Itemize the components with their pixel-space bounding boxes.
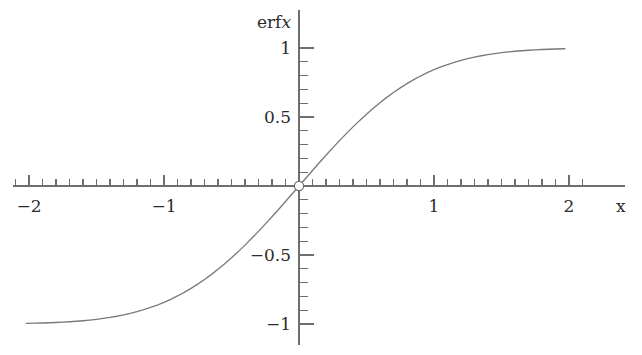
y-tick-label: 0.5 [264,109,291,126]
y-tick-label: 1 [280,40,291,57]
y-axis-title-variable: x [281,12,291,32]
x-axis-title: x [616,198,626,215]
y-axis-title: erfx [257,14,291,31]
y-tick-label: −1 [266,316,291,333]
x-tick-label: −1 [151,198,176,215]
x-axis [13,175,625,186]
x-tick-label: 2 [564,198,575,215]
y-tick-label: −0.5 [250,247,291,264]
erf-function-plot: erfx x −2−11210.5−0.5−1 [0,0,642,355]
y-axis-title-function: erf [257,12,281,32]
plot-canvas [0,0,642,355]
origin-marker [294,181,303,190]
x-tick-label: −2 [16,198,41,215]
origin-open-circle [294,181,303,190]
x-tick-label: 1 [429,198,440,215]
